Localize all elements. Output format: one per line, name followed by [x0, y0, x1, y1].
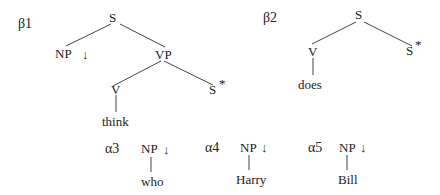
- substitution-arrow-icon: ↓: [261, 140, 268, 155]
- tree-label-beta2: β2: [263, 10, 277, 25]
- edge-s-v: [312, 22, 356, 44]
- tree-label-beta1: β1: [18, 16, 32, 31]
- tree-beta1: β1 S NP ↓ VP V S * think: [18, 10, 226, 129]
- tree-alpha3: α3 NP ↓ who: [105, 141, 170, 189]
- foot-star-icon: *: [415, 37, 422, 52]
- node-s-root: S: [355, 7, 362, 22]
- node-s-foot: S: [406, 43, 413, 58]
- anchor-think: think: [102, 114, 129, 129]
- edge-s-vp: [120, 24, 165, 47]
- node-s-foot: S: [209, 82, 216, 97]
- node-vp: VP: [155, 47, 172, 62]
- anchor-does: does: [298, 77, 322, 92]
- substitution-arrow-icon: ↓: [82, 47, 89, 62]
- tree-label-alpha3: α3: [105, 141, 119, 156]
- tree-label-alpha4: α4: [205, 140, 219, 155]
- anchor-bill: Bill: [338, 172, 358, 187]
- edge-s-sfoot: [364, 22, 412, 46]
- edge-s-np: [66, 24, 111, 46]
- tree-label-alpha5: α5: [308, 140, 322, 155]
- foot-star-icon: *: [219, 76, 226, 91]
- anchor-harry: Harry: [236, 172, 267, 187]
- tree-alpha4: α4 NP ↓ Harry: [205, 140, 268, 187]
- node-np: NP: [55, 46, 72, 61]
- node-v: V: [308, 44, 318, 59]
- tree-alpha5: α5 NP ↓ Bill: [308, 140, 367, 187]
- tag-tree-diagram: β1 S NP ↓ VP V S * think β2 S V S * does…: [0, 0, 440, 195]
- node-np: NP: [141, 141, 158, 156]
- node-np: NP: [240, 140, 257, 155]
- edge-vp-sfoot: [164, 61, 213, 85]
- anchor-who: who: [141, 174, 163, 189]
- substitution-arrow-icon: ↓: [163, 142, 170, 157]
- node-np: NP: [339, 140, 356, 155]
- node-v: V: [111, 82, 121, 97]
- substitution-arrow-icon: ↓: [360, 140, 367, 155]
- node-s-root: S: [109, 10, 116, 25]
- tree-beta2: β2 S V S * does: [263, 7, 422, 92]
